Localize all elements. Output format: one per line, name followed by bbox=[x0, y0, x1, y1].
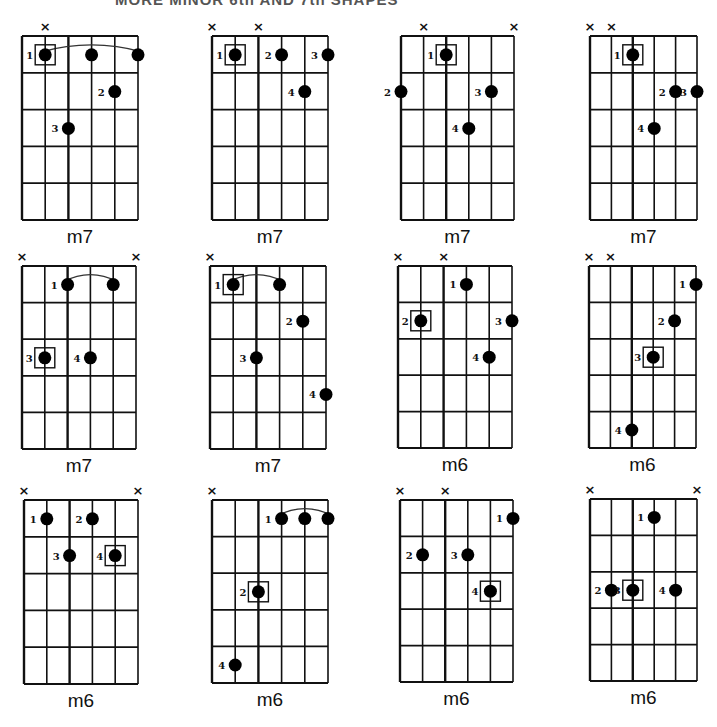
muted-string-icon: × bbox=[692, 482, 703, 497]
finger-dot bbox=[691, 85, 704, 98]
finger-number: 3 bbox=[26, 353, 33, 364]
finger-number: 2 bbox=[402, 316, 409, 327]
chord-diagram: ××1234 bbox=[590, 499, 697, 681]
muted-string-icon: × bbox=[133, 483, 144, 498]
finger-dot bbox=[85, 48, 98, 61]
chord-name-label: m6 bbox=[387, 688, 527, 710]
muted-string-icon: × bbox=[393, 249, 404, 264]
finger-dot bbox=[62, 122, 75, 135]
finger-dot bbox=[320, 388, 333, 401]
chord-name-label: m7 bbox=[200, 226, 340, 248]
finger-number: 1 bbox=[30, 514, 37, 525]
finger-number: 3 bbox=[311, 50, 318, 61]
finger-number: 4 bbox=[659, 585, 666, 596]
finger-number: 4 bbox=[73, 353, 80, 364]
finger-dot bbox=[86, 512, 99, 525]
finger-number: 4 bbox=[218, 660, 225, 671]
muted-string-icon: × bbox=[440, 483, 451, 498]
finger-number: 2 bbox=[659, 87, 666, 98]
finger-dot bbox=[322, 48, 335, 61]
muted-string-icon: × bbox=[40, 19, 51, 34]
finger-number: 1 bbox=[51, 280, 58, 291]
finger-number: 4 bbox=[615, 425, 622, 436]
chord-diagram: ××1234 bbox=[212, 36, 328, 220]
muted-string-icon: × bbox=[418, 19, 429, 34]
finger-dot bbox=[395, 85, 408, 98]
chord-diagram: ×1234 bbox=[210, 266, 326, 449]
finger-dot bbox=[227, 278, 240, 291]
finger-dot bbox=[626, 584, 639, 597]
chord-name-label: m6 bbox=[573, 454, 713, 476]
finger-number: 1 bbox=[614, 50, 621, 61]
finger-dot bbox=[275, 48, 288, 61]
finger-dot bbox=[61, 278, 74, 291]
chord-diagram: ××1234 bbox=[400, 500, 513, 682]
muted-string-icon: × bbox=[253, 19, 264, 34]
finger-dot bbox=[108, 85, 121, 98]
chord-diagram: ××1234 bbox=[590, 36, 697, 220]
finger-dot bbox=[668, 314, 681, 327]
finger-number: 1 bbox=[679, 279, 686, 290]
finger-dot bbox=[275, 512, 288, 525]
muted-string-icon: × bbox=[207, 483, 218, 498]
finger-number: 3 bbox=[614, 585, 621, 596]
finger-number: 1 bbox=[637, 512, 644, 523]
finger-dot bbox=[414, 314, 427, 327]
finger-dot bbox=[485, 85, 498, 98]
finger-dot bbox=[483, 351, 496, 364]
finger-number: 3 bbox=[474, 87, 481, 98]
muted-string-icon: × bbox=[131, 249, 142, 264]
finger-dot bbox=[647, 351, 660, 364]
finger-number: 2 bbox=[239, 587, 246, 598]
chord-name-label: m7 bbox=[574, 226, 714, 248]
chord-diagram: ××1234 bbox=[589, 266, 696, 448]
finger-number: 1 bbox=[449, 279, 456, 290]
chord-diagram: ×123 bbox=[22, 36, 138, 220]
chord-name-label: m6 bbox=[574, 687, 714, 709]
chord-name-label: m6 bbox=[11, 690, 151, 712]
chord-diagram: ××1234 bbox=[24, 500, 138, 684]
finger-dot bbox=[109, 549, 122, 562]
chord-diagram: ×124 bbox=[212, 500, 328, 683]
finger-dot bbox=[252, 585, 265, 598]
finger-number: 2 bbox=[658, 316, 665, 327]
finger-number: 1 bbox=[214, 280, 221, 291]
finger-number: 2 bbox=[98, 87, 105, 98]
finger-number: 4 bbox=[637, 123, 644, 134]
finger-dot bbox=[107, 278, 120, 291]
finger-dot bbox=[484, 585, 497, 598]
finger-number: 2 bbox=[265, 50, 272, 61]
chord-name-label: m7 bbox=[9, 455, 149, 477]
muted-string-icon: × bbox=[17, 249, 28, 264]
muted-string-icon: × bbox=[606, 19, 617, 34]
finger-number: 1 bbox=[26, 50, 33, 61]
finger-dot bbox=[648, 122, 661, 135]
finger-dot bbox=[273, 278, 286, 291]
finger-dot bbox=[648, 511, 661, 524]
muted-string-icon: × bbox=[605, 249, 616, 264]
finger-number: 2 bbox=[286, 316, 293, 327]
muted-string-icon: × bbox=[438, 249, 449, 264]
muted-string-icon: × bbox=[207, 19, 218, 34]
page-title: MORE MINOR 6th AND 7th SHAPES bbox=[115, 0, 398, 8]
finger-dot bbox=[40, 512, 53, 525]
finger-number: 4 bbox=[452, 123, 459, 134]
finger-number: 1 bbox=[265, 514, 272, 525]
muted-string-icon: × bbox=[395, 483, 406, 498]
finger-dot bbox=[298, 512, 311, 525]
finger-number: 2 bbox=[406, 550, 413, 561]
finger-number: 3 bbox=[634, 352, 641, 363]
finger-dot bbox=[460, 278, 473, 291]
chord-name-label: m7 bbox=[388, 226, 528, 248]
finger-number: 1 bbox=[216, 50, 223, 61]
finger-number: 1 bbox=[496, 513, 503, 524]
muted-string-icon: × bbox=[205, 249, 216, 264]
finger-dot bbox=[229, 48, 242, 61]
muted-string-icon: × bbox=[509, 19, 520, 34]
finger-dot bbox=[461, 548, 474, 561]
finger-dot bbox=[625, 424, 638, 437]
finger-dot bbox=[84, 351, 97, 364]
finger-number: 2 bbox=[594, 585, 601, 596]
finger-dot bbox=[298, 85, 311, 98]
finger-number: 4 bbox=[471, 586, 478, 597]
